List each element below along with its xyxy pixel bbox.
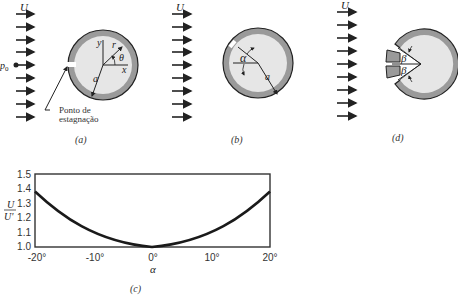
stagnation-label-line2: estagnação [59,114,99,124]
cylinder-d [386,29,458,99]
panel-b: U α a (b) [172,1,293,146]
svg-text:0°: 0° [148,252,158,263]
plot-frame [35,174,270,247]
flow-arrows-d [337,12,356,116]
caption-b: (b) [231,134,243,146]
cylinder-a [66,30,138,100]
svg-text:1.1: 1.1 [17,227,31,238]
svg-text:1.0: 1.0 [17,241,31,252]
svg-text:U': U' [4,211,14,222]
panel-a: U p0 y x r θ a Ponto de estagnação (a) [0,1,138,146]
cylinder-b [223,28,293,98]
caption-a: (a) [75,134,87,146]
alpha-label-b: α [240,51,247,65]
caption-d: (d) [392,132,404,144]
figure-canvas: U p0 y x r θ a Ponto de estagnação (a) [0,0,458,296]
svg-text:1.5: 1.5 [17,169,31,180]
x-axis-label-alpha: α [150,263,156,275]
beta-label-top: β [400,52,407,64]
caption-c: (c) [130,283,142,295]
pressure-label: p0 [0,60,9,73]
svg-text:-20°: -20° [28,252,46,263]
flow-arrows-a [16,14,34,117]
svg-text:U: U [7,199,15,210]
beta-label-bottom: β [400,64,407,76]
panel-d: U β β (d) [337,0,458,144]
panel-c-chart: 1.0 1.1 1.2 1.3 1.4 1.5 -20° -10° 0° 10°… [4,169,278,295]
svg-text:10°: 10° [204,252,219,263]
svg-text:1.3: 1.3 [17,198,31,209]
pressure-point-icon [14,63,19,68]
svg-text:20°: 20° [262,252,277,263]
y-axis-label-fraction: U U' [4,199,16,222]
theta-label: θ [119,52,124,63]
cylinder-radius-label-b: a [265,71,270,82]
svg-text:1.2: 1.2 [17,212,31,223]
y-axis-label: y [96,37,102,48]
flow-velocity-label-a: U [20,1,29,13]
radius-label: r [112,39,116,50]
ratio-curve [35,192,270,248]
svg-text:-10°: -10° [86,252,104,263]
cylinder-radius-label-a: a [93,73,98,84]
flow-arrows-b [172,14,191,117]
y-tick-labels: 1.0 1.1 1.2 1.3 1.4 1.5 [17,169,31,252]
flow-velocity-label-b: U [176,1,185,13]
stagnation-pointer [45,67,67,110]
x-tick-labels: -20° -10° 0° 10° 20° [28,252,278,263]
x-axis-label: x [121,64,127,75]
svg-text:1.4: 1.4 [17,183,31,194]
flow-velocity-label-d: U [341,0,350,11]
